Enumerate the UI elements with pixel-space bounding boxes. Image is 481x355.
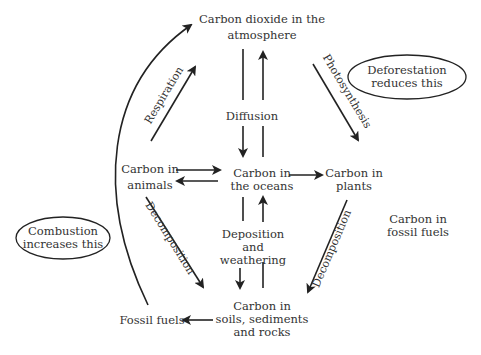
deforestation-line-1: Deforestation [367,63,447,77]
fossil-fuels-store-line-2: fossil fuels [387,225,449,239]
deposition-label: Deposition and weathering [220,227,287,267]
animals-line-2: animals [127,178,172,192]
deposition-line-1: Deposition [222,227,285,241]
plants-line-1: Carbon in [325,166,383,180]
combustion-line-2: increases this [23,237,104,251]
node-plants: Carbon in plants [325,166,383,193]
decomposition-animals-label: Decomposition [142,200,197,277]
atmosphere-line-1: Carbon dioxide in the [199,12,325,26]
carbon-cycle-diagram: Carbon dioxide in the atmosphere Carbon … [0,0,481,355]
soils-line-1: Carbon in [233,299,291,313]
node-atmosphere: Carbon dioxide in the atmosphere [199,12,325,42]
decomposition-plants-label: Decomposition [310,208,354,289]
node-soils: Carbon in soils, sediments and rocks [216,299,309,339]
oceans-line-1: Carbon in [233,166,291,180]
animals-line-1: Carbon in [121,162,179,176]
combustion-line-1: Combustion [28,224,99,238]
diffusion-label: Diffusion [226,109,279,123]
oceans-line-2: the oceans [231,179,294,193]
soils-line-2: soils, sediments [216,312,309,326]
combustion-callout: Combustion increases this [16,217,110,259]
deposition-line-2: and [242,240,264,254]
node-oceans: Carbon in the oceans [231,166,294,193]
respiration-label: Respiration [142,64,186,126]
fossil-fuels-store-line-1: Carbon in [389,212,447,226]
deposition-line-3: weathering [220,253,287,267]
soils-line-3: and rocks [233,325,290,339]
deforestation-callout: Deforestation reduces this [348,55,466,99]
node-fossil-fuels: Fossil fuels [119,313,184,327]
atmosphere-line-2: atmosphere [227,28,296,42]
node-fossil-fuels-store: Carbon in fossil fuels [387,212,449,239]
node-animals: Carbon in animals [121,162,179,192]
plants-line-2: plants [336,179,372,193]
deforestation-line-2: reduces this [371,76,443,90]
